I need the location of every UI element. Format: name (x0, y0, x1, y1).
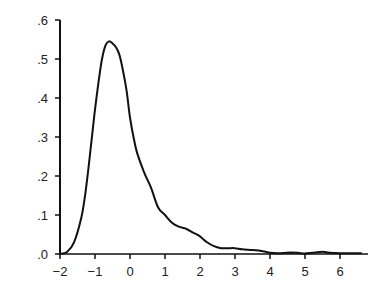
x-tick-label: 4 (266, 264, 273, 279)
y-tick-label: .5 (37, 52, 48, 67)
y-tick-label: .3 (37, 130, 48, 145)
x-tick-label: −2 (53, 264, 68, 279)
x-tick-label: 5 (301, 264, 308, 279)
x-tick-label: 3 (231, 264, 238, 279)
y-tick-label: .1 (37, 208, 48, 223)
density-curve (60, 41, 361, 254)
y-tick-label: .2 (37, 169, 48, 184)
y-axis: .0.1.2.3.4.5.6 (37, 13, 60, 262)
x-tick-label: −1 (88, 264, 103, 279)
y-tick-label: .6 (37, 13, 48, 28)
y-tick-label: .0 (37, 247, 48, 262)
x-tick-label: 0 (126, 264, 133, 279)
x-tick-label: 6 (336, 264, 343, 279)
density-chart: .0.1.2.3.4.5.6 −2−10123456 (0, 0, 382, 300)
y-tick-label: .4 (37, 91, 48, 106)
x-tick-label: 2 (196, 264, 203, 279)
x-axis: −2−10123456 (53, 254, 368, 279)
x-tick-label: 1 (161, 264, 168, 279)
